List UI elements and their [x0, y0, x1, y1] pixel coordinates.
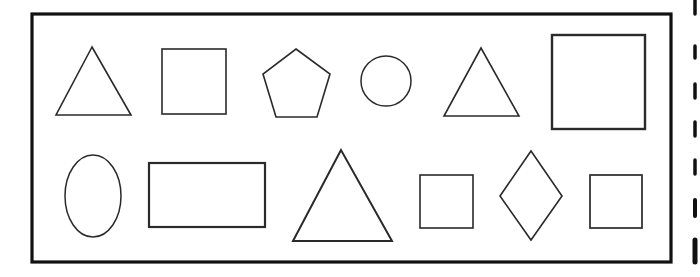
- triangle-shape: [56, 47, 131, 115]
- circle-shape: [361, 56, 411, 106]
- rectangle-shape: [149, 163, 265, 227]
- pentagon-shape: [263, 49, 330, 117]
- small-square-shape: [590, 175, 642, 228]
- diamond-shape: [500, 151, 562, 240]
- large-triangle-shape: [293, 150, 392, 241]
- shapes-worksheet: [0, 0, 700, 277]
- small-square-shape: [420, 175, 473, 228]
- large-square-shape: [552, 35, 645, 129]
- triangle-shape: [444, 48, 519, 116]
- oval-shape: [65, 155, 121, 237]
- square-shape: [162, 49, 226, 114]
- row-bottom: [65, 150, 642, 241]
- row-top: [56, 35, 645, 129]
